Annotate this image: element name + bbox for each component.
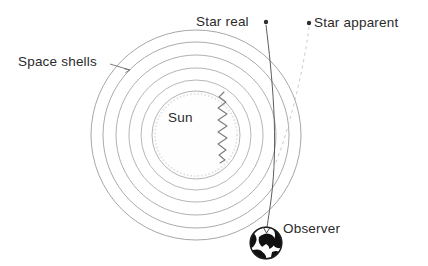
label-star-apparent: Star apparent [314, 16, 398, 30]
label-observer: Observer [283, 222, 340, 236]
sun-circle [152, 91, 240, 179]
star-real-marker-icon [264, 20, 268, 24]
label-space-shells: Space shells [18, 55, 97, 69]
diagram-svg [0, 0, 428, 266]
apparent-ray-line [272, 27, 309, 172]
label-star-real: Star real [196, 15, 249, 29]
label-sun: Sun [168, 111, 193, 125]
diagram-canvas: Space shells Star real Star apparent Sun… [0, 0, 428, 266]
star-apparent-marker-icon [307, 21, 311, 25]
observer-globe-icon [245, 227, 286, 263]
real-ray-line [266, 25, 275, 232]
